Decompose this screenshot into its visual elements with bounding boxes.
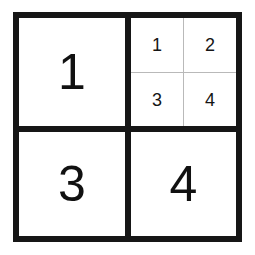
subgrid-cell-bottom-right[interactable]: 4: [184, 73, 236, 127]
subgrid-cell-bottom-left-label: 3: [152, 91, 162, 109]
quadrant-top-right-nested-grid[interactable]: 1 2 3 4: [131, 18, 236, 126]
main-divider-horizontal: [13, 126, 242, 132]
subgrid-cell-bottom-left[interactable]: 3: [131, 73, 183, 127]
quadrant-figure: 1 1 2 3 4 3 4: [0, 0, 255, 255]
subgrid: 1 2 3 4: [131, 18, 236, 126]
quadrant-top-left[interactable]: 1: [19, 18, 125, 126]
quadrant-bottom-right[interactable]: 4: [131, 132, 236, 236]
subgrid-cell-top-left[interactable]: 1: [131, 18, 183, 72]
subgrid-cell-top-left-label: 1: [152, 36, 162, 54]
quadrant-bottom-left[interactable]: 3: [19, 132, 125, 236]
quadrant-bottom-right-label: 4: [170, 159, 198, 209]
subgrid-cell-bottom-right-label: 4: [205, 91, 215, 109]
subgrid-cell-top-right[interactable]: 2: [184, 18, 236, 72]
subgrid-cell-top-right-label: 2: [205, 36, 215, 54]
quadrant-bottom-left-label: 3: [58, 159, 86, 209]
quadrant-top-left-label: 1: [58, 47, 86, 97]
